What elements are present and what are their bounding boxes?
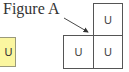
grid-cell-bottom-right[interactable]: U: [93, 35, 123, 69]
grid-cell-bottom-left[interactable]: U: [63, 35, 94, 69]
grid-cell-top-right[interactable]: U: [93, 3, 123, 36]
cell-label: U: [104, 46, 112, 58]
cell-label: U: [75, 46, 83, 58]
cell-label: U: [104, 14, 112, 26]
